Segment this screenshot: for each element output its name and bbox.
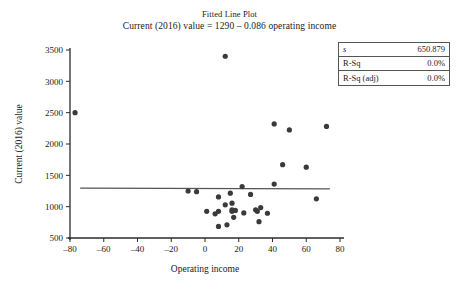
stats-value-rsq-adj: 0.0% [427,73,445,83]
statistics-box: s 650.879 R-Sq 0.0% R-Sq (adj) 0.0% [338,42,450,86]
data-point [314,196,319,201]
data-point [304,165,309,170]
data-point [229,201,234,206]
data-point [240,184,245,189]
data-point [204,209,209,214]
data-point [223,202,228,207]
data-point [186,188,191,193]
y-axis-title: Current (2016) value [14,104,25,184]
data-point [228,191,233,196]
data-point [231,215,236,220]
regression-line [80,188,330,189]
stats-row-rsq: R-Sq 0.0% [339,57,449,71]
data-point [194,189,199,194]
data-point [258,205,263,210]
regression-line-group [80,188,330,189]
data-point [272,121,277,126]
y-tick-label: 500 [50,233,64,243]
stats-value-s: 650.879 [417,44,445,54]
data-point [216,194,221,199]
data-point [216,224,221,229]
y-tick-group: 500100015002000250030003500 [45,45,70,243]
x-tick-label: 80 [336,244,346,254]
y-tick-label: 2500 [45,108,64,118]
x-tick-label: 40 [268,244,278,254]
data-point [265,211,270,216]
data-point [233,208,238,213]
x-tick-label: –80 [62,244,77,254]
x-tick-label: 0 [203,244,208,254]
y-tick-label: 3000 [45,77,64,87]
y-tick-label: 2000 [45,139,64,149]
stats-key-rsq: R-Sq [343,58,360,68]
x-tick-group: –80–60–40–20020406080 [62,238,345,254]
y-tick-label: 1000 [45,202,64,212]
data-point [324,124,329,129]
data-points-group [72,54,329,229]
data-point [248,192,253,197]
x-axis-title: Operating income [171,264,239,274]
x-tick-label: 20 [234,244,244,254]
data-point [224,222,229,227]
stats-value-rsq: 0.0% [427,58,445,68]
stats-row-rsq-adj: R-Sq (adj) 0.0% [339,71,449,85]
data-point [280,162,285,167]
data-point [272,182,277,187]
x-tick-label: –40 [130,244,145,254]
y-tick-label: 3500 [45,45,64,55]
fitted-line-plot-figure: Fitted Line Plot Current (2016) value = … [0,0,459,281]
data-point [216,209,221,214]
x-tick-label: –20 [164,244,179,254]
stats-row-s: s 650.879 [339,43,449,57]
data-point [241,210,246,215]
data-point [287,127,292,132]
data-point [72,110,77,115]
stats-key-rsq-adj: R-Sq (adj) [343,73,379,83]
x-tick-label: 60 [302,244,312,254]
x-tick-label: –60 [96,244,111,254]
data-point [256,219,261,224]
stats-key-s: s [343,44,346,54]
data-point [223,54,228,59]
y-tick-label: 1500 [45,171,64,181]
